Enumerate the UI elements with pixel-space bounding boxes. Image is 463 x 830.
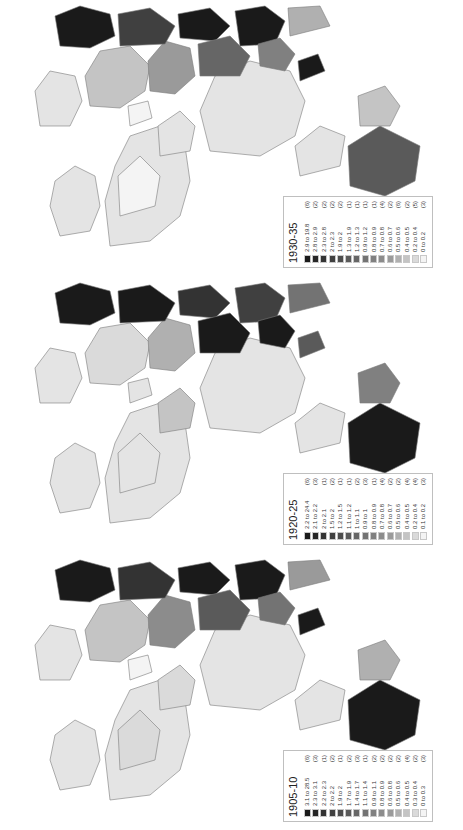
- legend-range: 2.3 to 2.8: [321, 208, 327, 252]
- legend-count: (3): [312, 755, 318, 762]
- legend-range: 0.6 to 0.7: [387, 485, 393, 529]
- legend-swatch: [362, 255, 369, 263]
- legend-row: 0.6 to 0.7(2): [386, 201, 394, 263]
- legend-swatch: [403, 532, 410, 540]
- legend-row: 0 to 0.2(3): [419, 201, 427, 263]
- legend-range: 0.5 to 0.6: [395, 485, 401, 529]
- legend-count: (2): [346, 755, 352, 762]
- map-panel-1930-35: 1930-35 2.9 to 19.8(6)2.8 to 2.9(2)2.3 t…: [0, 0, 463, 276]
- legend-swatch: [345, 532, 352, 540]
- legend-range: 2.2 to 2.3: [321, 762, 327, 806]
- legend-range: 0.7 to 0.8: [379, 208, 385, 252]
- legend-range: 1.4 to 1.7: [354, 762, 360, 806]
- legend-swatch: [304, 532, 311, 540]
- legend-row: 0.3 to 0.4(2): [411, 755, 419, 817]
- legend-count: (2): [329, 201, 335, 208]
- legend-row: 0.4 to 0.5(4): [403, 478, 411, 540]
- figure-canvas: 1930-35 2.9 to 19.8(6)2.8 to 2.9(2)2.3 t…: [0, 0, 463, 830]
- legend-range: 2.2 to 24.4: [304, 485, 310, 529]
- legend-row: 1.3 to 1.9(1): [344, 201, 352, 263]
- legend-range: 0.4 to 0.5: [404, 762, 410, 806]
- legend-count: (6): [304, 755, 310, 762]
- legend-count: (4): [404, 755, 410, 762]
- legend-swatch: [362, 532, 369, 540]
- legend-count: (6): [304, 478, 310, 485]
- legend-range: 0.5 to 0.6: [395, 208, 401, 252]
- legend-title: 1905-10: [287, 755, 300, 817]
- legend-row: 2.3 to 3.1(3): [311, 755, 319, 817]
- legend-row: 0.8 to 0.9(2): [378, 755, 386, 817]
- legend-title: 1930-35: [287, 201, 300, 263]
- legend-swatch: [337, 255, 344, 263]
- legend-count: (1): [371, 201, 377, 208]
- legend-count: (1): [346, 201, 352, 208]
- legend-swatch: [353, 255, 360, 263]
- legend-swatch: [378, 255, 385, 263]
- legend-row: 1.4 to 1.7(3): [353, 755, 361, 817]
- legend-count: (1): [321, 755, 327, 762]
- legend-range: 2.9 to 19.8: [304, 208, 310, 252]
- legend-swatch: [345, 255, 352, 263]
- legend-range: 1.9 to 2: [337, 208, 343, 252]
- legend-count: (2): [379, 755, 385, 762]
- legend-swatch: [312, 809, 319, 817]
- legend-row: 0.6 to 0.8(2): [386, 755, 394, 817]
- legend-row: 1.1 to 1.4(1): [361, 755, 369, 817]
- legend-row: 1 to 1.1(2): [353, 478, 361, 540]
- legend-range: 0.8 to 0.9: [379, 762, 385, 806]
- legend-row: 2.1 to 2.2(3): [311, 478, 319, 540]
- legend-swatch: [395, 809, 402, 817]
- legend-swatch: [320, 255, 327, 263]
- legend-range: 0.9 to 1.2: [362, 208, 368, 252]
- legend-row: 2.2 to 2.3(1): [320, 755, 328, 817]
- legend-count: (6): [395, 201, 401, 208]
- legend-count: (4): [379, 478, 385, 485]
- legend-row: 1.9 to 2(1): [336, 755, 344, 817]
- legend-swatch: [420, 809, 427, 817]
- legend-range: 1.3 to 1.9: [346, 208, 352, 252]
- legend-swatch: [412, 809, 419, 817]
- legend-row: 2.2 to 24.4(6): [303, 478, 311, 540]
- legend-range: 0.8 to 0.9: [371, 485, 377, 529]
- legend-swatch: [412, 255, 419, 263]
- legend-row: 0.9 to 1.2(1): [361, 201, 369, 263]
- legend-row: 1.2 to 1.5(1): [336, 478, 344, 540]
- legend-row: 2.3 to 2.8(2): [320, 201, 328, 263]
- legend-row: 0.9 to 1.1(2): [369, 755, 377, 817]
- legend-count: (2): [371, 755, 377, 762]
- legend-range: 0.7 to 0.8: [379, 485, 385, 529]
- legend-swatch: [362, 809, 369, 817]
- legend-swatch: [304, 255, 311, 263]
- legend-row: 0.7 to 0.8(4): [378, 201, 386, 263]
- legend-range: 2.1 to 2.2: [312, 485, 318, 529]
- legend-count: (3): [420, 201, 426, 208]
- legend-row: 2 to 2.1(1): [320, 478, 328, 540]
- legend-range: 2 to 2.3: [329, 208, 335, 252]
- legend-count: (2): [321, 201, 327, 208]
- legend-swatch: [403, 809, 410, 817]
- legend-range: 0.9 to 1: [362, 485, 368, 529]
- legend-row: 0.4 to 0.5(4): [403, 755, 411, 817]
- legend-range: 0.6 to 0.8: [387, 762, 393, 806]
- legend-count: (2): [387, 755, 393, 762]
- legend-count: (2): [329, 478, 335, 485]
- legend-count: (3): [420, 478, 426, 485]
- legend-count: (1): [337, 755, 343, 762]
- legend-swatch: [353, 809, 360, 817]
- legend-row: 0.4 to 0.5(2): [403, 201, 411, 263]
- legend-row: 2.9 to 19.8(6): [303, 201, 311, 263]
- legend-row: 0.6 to 0.7(2): [386, 478, 394, 540]
- legend-row: 1.5 to 2(2): [328, 478, 336, 540]
- legend-row: 0.5 to 0.6(2): [394, 755, 402, 817]
- legend-range: 0.3 to 0.4: [412, 762, 418, 806]
- legend-count: (2): [354, 478, 360, 485]
- legend-range: 0.8 to 0.9: [371, 208, 377, 252]
- legend-range: 0.4 to 0.5: [404, 208, 410, 252]
- legend-row: 0.2 to 0.4(4): [411, 478, 419, 540]
- legend-count: (1): [321, 478, 327, 485]
- legend-range: 0.1 to 0.2: [420, 485, 426, 529]
- legend-swatch: [395, 255, 402, 263]
- legend-range: 1 to 1.1: [354, 485, 360, 529]
- legend-range: 1.1 to 1.2: [346, 485, 352, 529]
- legend-swatch: [353, 532, 360, 540]
